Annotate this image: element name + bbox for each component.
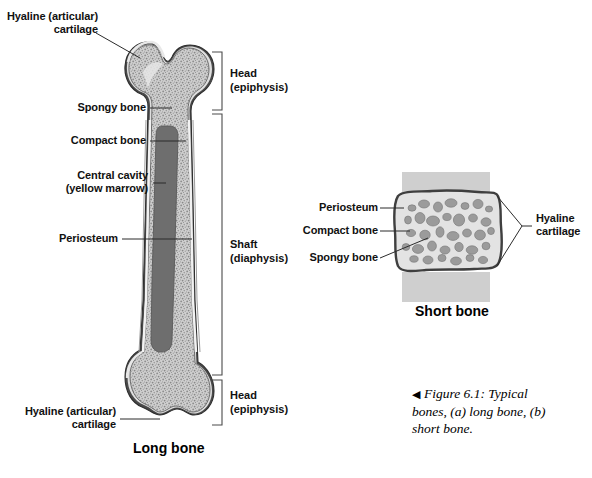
label-sb-periosteum: Periosteum [270,201,378,214]
bracket-label-head-top: Head (epiphysis) [230,66,288,94]
long-bone-illustration [110,30,230,430]
title-short-bone: Short bone [415,303,489,319]
label-hyaline-cartilage-bottom: Hyaline (articular) cartilage [4,405,116,431]
label-sb-hyaline-cartilage: Hyaline cartilage [536,212,592,238]
bracket-head-top [212,52,222,110]
label-sb-compact-bone: Compact bone [270,224,378,237]
figure-page: Hyaline (articular) cartilage Spongy bon… [0,0,592,478]
title-long-bone: Long bone [133,440,205,456]
bracket-label-head-bottom: Head (epiphysis) [230,388,288,416]
label-sb-spongy-bone: Spongy bone [270,251,378,264]
leader-hyaline-top [96,33,140,58]
figure-caption: ◀Figure 6.1: Typical bones, (a) long bon… [412,385,562,437]
long-bone-brackets [212,52,222,425]
short-bone-illustration [394,172,502,302]
label-hyaline-cartilage-top: Hyaline (articular) cartilage [0,10,98,36]
bracket-shaft [212,114,222,375]
label-spongy-bone: Spongy bone [28,101,146,114]
caption-text: Figure 6.1: Typical bones, (a) long bone… [412,386,545,436]
label-periosteum: Periosteum [28,232,118,245]
label-central-cavity: Central cavity (yellow marrow) [22,169,148,195]
caption-marker-icon: ◀ [412,388,424,400]
short-bone-cartilage-bottom [402,272,490,302]
label-compact-bone: Compact bone [28,134,146,147]
